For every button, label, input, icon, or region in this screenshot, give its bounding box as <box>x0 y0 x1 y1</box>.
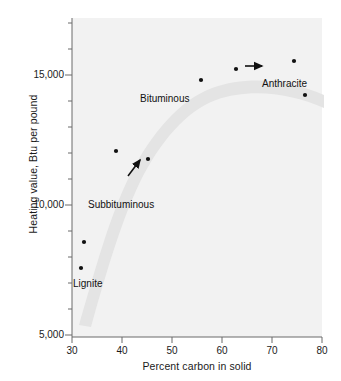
data-point <box>79 266 83 270</box>
data-point <box>199 78 203 82</box>
data-point <box>146 157 150 161</box>
x-tick-label-60: 60 <box>208 345 236 356</box>
data-point <box>234 67 238 71</box>
x-tick-label-50: 50 <box>158 345 186 356</box>
chart-figure: 15,000 10,000 5,000 30 40 50 60 70 80 He… <box>0 0 341 381</box>
data-point <box>114 149 118 153</box>
data-point <box>292 59 296 63</box>
annotation-subbituminous: Subbituminous <box>88 199 154 210</box>
y-axis-title: Heating value, Btu per pound <box>27 44 41 284</box>
annotation-bituminous: Bituminous <box>140 93 189 104</box>
chart-canvas <box>0 0 341 381</box>
x-axis-title: Percent carbon in solid <box>72 360 322 372</box>
data-point <box>303 93 307 97</box>
x-tick-label-70: 70 <box>258 345 286 356</box>
annotation-anthracite: Anthracite <box>262 78 307 89</box>
annotation-lignite: Lignite <box>73 278 102 289</box>
plot-area-background <box>72 18 322 337</box>
y-tick-label-5000: 5,000 <box>20 329 64 340</box>
data-point <box>82 240 86 244</box>
x-tick-label-30: 30 <box>58 345 86 356</box>
y-axis-major-ticks <box>65 75 72 335</box>
y-axis-minor-ticks <box>68 23 72 309</box>
x-tick-label-80: 80 <box>308 345 336 356</box>
x-axis-ticks <box>72 337 322 343</box>
x-tick-label-40: 40 <box>108 345 136 356</box>
